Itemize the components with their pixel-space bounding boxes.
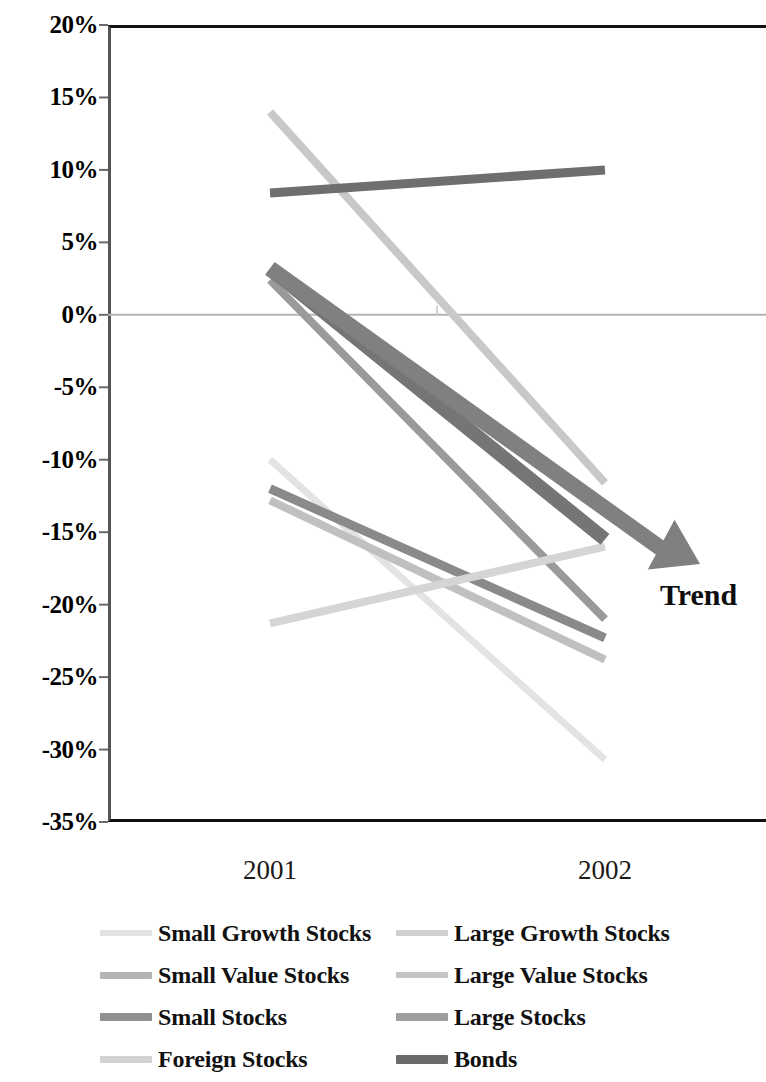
legend-item: Large Value Stocks bbox=[396, 954, 678, 996]
legend-item: Large Growth Stocks bbox=[396, 912, 678, 954]
series-lines bbox=[270, 112, 605, 760]
series-line bbox=[270, 280, 605, 619]
chart-container: 20%15%10%5%0%-5%-10%-15%-20%-25%-30%-35%… bbox=[0, 0, 766, 1082]
x-axis-tick-label: 2002 bbox=[578, 855, 632, 886]
legend-label: Small Value Stocks bbox=[158, 962, 349, 989]
legend-label: Bonds bbox=[454, 1046, 517, 1073]
series-line bbox=[270, 500, 605, 659]
legend-swatch-icon bbox=[396, 930, 448, 936]
chart-legend: Small Growth StocksLarge Growth StocksSm… bbox=[100, 912, 740, 1080]
legend-swatch-icon bbox=[100, 972, 152, 979]
legend-label: Small Growth Stocks bbox=[158, 920, 371, 947]
y-axis-tick-marks bbox=[99, 25, 108, 822]
legend-label: Small Stocks bbox=[158, 1004, 287, 1031]
legend-item: Foreign Stocks bbox=[100, 1038, 382, 1080]
legend-item: Small Value Stocks bbox=[100, 954, 382, 996]
legend-swatch-icon bbox=[396, 1013, 448, 1021]
legend-swatch-icon bbox=[396, 1055, 448, 1064]
legend-swatch-icon bbox=[100, 1013, 152, 1021]
legend-item: Small Growth Stocks bbox=[100, 912, 382, 954]
legend-swatch-icon bbox=[100, 1056, 152, 1063]
trend-arrow-icon bbox=[270, 268, 712, 592]
legend-item: Bonds bbox=[396, 1038, 678, 1080]
trend-annotation-label: Trend bbox=[660, 578, 737, 612]
legend-item: Large Stocks bbox=[396, 996, 678, 1038]
legend-label: Large Stocks bbox=[454, 1004, 586, 1031]
legend-label: Large Value Stocks bbox=[454, 962, 648, 989]
legend-swatch-icon bbox=[396, 972, 448, 978]
legend-label: Large Growth Stocks bbox=[454, 920, 670, 947]
x-axis-tick-label: 2001 bbox=[243, 855, 297, 886]
legend-item: Small Stocks bbox=[100, 996, 382, 1038]
legend-swatch-icon bbox=[100, 930, 152, 936]
gridlines bbox=[108, 306, 766, 315]
legend-label: Foreign Stocks bbox=[158, 1046, 307, 1073]
